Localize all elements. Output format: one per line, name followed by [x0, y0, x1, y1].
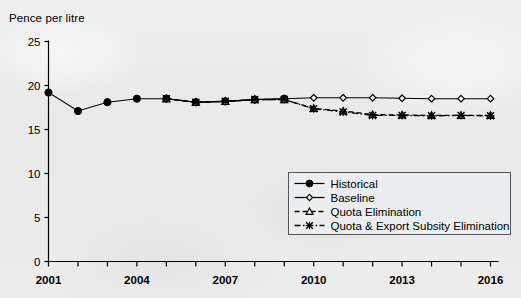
x-tick-label: 2007: [213, 274, 239, 286]
data-point-marker: [45, 89, 52, 96]
data-point-marker: [486, 112, 494, 120]
data-point-marker: [487, 95, 494, 102]
data-point-marker: [428, 112, 436, 120]
x-axis: 200120042007201020132016: [36, 262, 504, 286]
x-tick-label: 2016: [478, 274, 504, 286]
data-point-marker: [162, 95, 170, 103]
legend-label: Historical: [331, 178, 378, 190]
data-point-marker: [133, 95, 140, 102]
x-tick-label: 2013: [389, 274, 415, 286]
data-point-marker: [221, 97, 229, 105]
series-line: [166, 99, 490, 116]
y-tick-label: 5: [34, 212, 40, 224]
y-axis: 2520151050: [28, 36, 49, 268]
x-tick-label: 2001: [36, 274, 62, 286]
data-point-marker: [306, 180, 313, 187]
data-point-marker: [458, 95, 465, 102]
data-point-marker: [104, 99, 111, 106]
series-baseline: [163, 95, 494, 106]
data-point-marker: [306, 222, 314, 230]
data-point-marker: [192, 98, 200, 106]
data-point-marker: [369, 111, 377, 119]
data-point-marker: [399, 95, 406, 102]
data-point-marker: [369, 95, 376, 102]
y-tick-label: 0: [34, 256, 40, 268]
legend-label: Quota & Export Subsity Elimination: [331, 220, 510, 232]
data-point-marker: [251, 96, 259, 104]
data-point-marker: [457, 111, 465, 119]
data-point-marker: [428, 95, 435, 102]
data-point-marker: [398, 111, 406, 119]
y-tick-label: 20: [28, 80, 41, 92]
series-layer: [45, 89, 495, 120]
data-point-marker: [74, 107, 81, 114]
x-tick-label: 2004: [124, 274, 150, 286]
data-point-marker: [310, 105, 318, 113]
legend-label: Baseline: [331, 192, 375, 204]
legend-label: Quota Elimination: [331, 206, 422, 218]
data-point-marker: [310, 95, 317, 102]
y-tick-label: 25: [28, 36, 41, 48]
y-tick-label: 10: [28, 168, 41, 180]
y-tick-label: 15: [28, 124, 41, 136]
x-tick-label: 2010: [301, 274, 327, 286]
data-point-marker: [280, 96, 288, 104]
line-chart: 2520151050 200120042007201020132016 Hist…: [0, 0, 521, 298]
data-point-marker: [340, 95, 347, 102]
data-point-marker: [339, 108, 347, 116]
chart-legend[interactable]: HistoricalBaselineQuota EliminationQuota…: [289, 173, 511, 235]
